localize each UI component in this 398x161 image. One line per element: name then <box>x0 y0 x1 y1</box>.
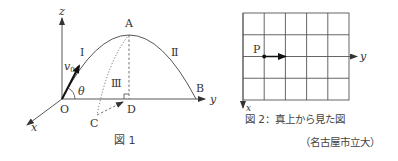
fig2-y-axis-label: y <box>359 50 367 63</box>
path-label-III: Ⅲ <box>111 77 122 90</box>
line-C-D <box>97 102 123 115</box>
point-label-O: O <box>60 103 69 116</box>
angle-theta-label: θ <box>78 85 85 98</box>
point-label-D: D <box>127 103 136 116</box>
trajectory-III <box>97 35 129 115</box>
physics-diagram: z y x θ v0 Ⅰ Ⅱ Ⅲ A B O D C <box>0 0 398 161</box>
source-attribution: （名古屋市立大） <box>300 136 380 148</box>
point-label-A: A <box>124 17 134 30</box>
figure-2-caption: 図 2：真上から見た図 <box>245 113 345 125</box>
right-angle-mark <box>124 94 129 99</box>
point-label-P: P <box>253 43 261 56</box>
figure-2: y x P 図 2：真上から見た図 <box>243 13 367 125</box>
fig2-x-axis-label: x <box>246 103 251 113</box>
figure-1: z y x θ v0 Ⅰ Ⅱ Ⅲ A B O D C <box>27 5 217 147</box>
velocity-label: v0 <box>64 60 75 74</box>
path-label-I: Ⅰ <box>80 46 84 59</box>
figure-1-caption: 図 1 <box>114 134 136 147</box>
y-axis-label: y <box>209 93 217 106</box>
angle-arc <box>68 88 75 99</box>
path-label-II: Ⅱ <box>171 46 178 59</box>
z-axis-label: z <box>58 5 65 18</box>
point-label-C: C <box>90 117 98 130</box>
x-axis-label: x <box>31 121 38 134</box>
point-label-B: B <box>196 82 204 95</box>
